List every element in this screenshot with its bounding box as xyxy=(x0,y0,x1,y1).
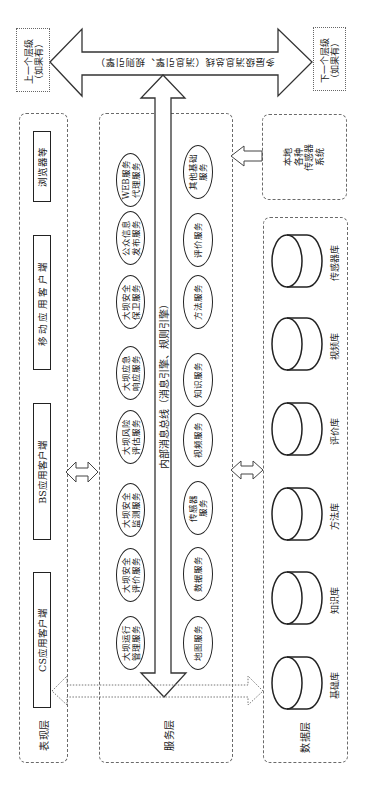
service-sensor: 传感器服务 xyxy=(183,481,213,535)
service-data: 数据服务 xyxy=(183,547,213,601)
service-dam-operation-management: 大坝运行管理服务 xyxy=(116,616,145,670)
service-data-double-arrow xyxy=(231,461,263,479)
service-web-proxy: WEB服务代理服务 xyxy=(116,153,145,207)
service-evaluation: 评价服务 xyxy=(183,213,213,267)
service-knowledge: 知识服务 xyxy=(183,353,213,407)
service-public-info-publishing: 公众信息发布服务 xyxy=(116,211,145,265)
database-cylinder-icon xyxy=(271,570,325,626)
sensor-to-service-arrow xyxy=(231,146,262,166)
architecture-diagram: 上一个层级 （如果有） 下一个层级 （如果有） 多层级消息总线（消息引擎、规则引… xyxy=(0,0,369,789)
upper-level-box: 上一个层级 （如果有） xyxy=(16,28,50,92)
service-layer-label: 服务层 xyxy=(161,719,176,751)
internal-bus-label: 内部消息总线（消息引擎、规则引擎） xyxy=(156,299,171,469)
database-cylinder-icon xyxy=(271,486,325,542)
service-dam-risk-assessment: 大坝风险评估服务 xyxy=(116,410,145,464)
service-dam-emergency-response: 大坝应急响应服务 xyxy=(116,346,145,400)
service-dam-security: 大坝安全保卫服务 xyxy=(116,275,145,329)
database-knowledge: 知识库 xyxy=(271,570,341,626)
lower-level-box: 下一个层级 （如果有） xyxy=(313,27,346,91)
service-method: 方法服务 xyxy=(183,275,213,329)
service-video: 视频服务 xyxy=(183,413,213,467)
service-map: 地图服务 xyxy=(183,616,213,670)
local-sensor-system-label: 本地 各种 传感器 系统 xyxy=(283,144,325,171)
client-mobile: 移动应用客户端 xyxy=(33,235,51,370)
client-cs: CS应用客户端 xyxy=(33,572,51,708)
database-sensor: 传感器库 xyxy=(271,233,341,289)
lower-level-label: 下一个层级 （如果有） xyxy=(320,38,340,83)
service-dam-safety-monitoring: 大坝安全监测服务 xyxy=(116,483,145,537)
client-browser: 浏览器等 xyxy=(33,131,51,202)
database-cylinder-icon xyxy=(271,401,325,457)
database-evaluation: 评价库 xyxy=(271,401,341,457)
database-cylinder-icon xyxy=(271,316,325,372)
service-other-base: 其他基础服务 xyxy=(183,145,213,199)
multilevel-bus-label: 多层级消息总线（消息引擎、规则引擎） xyxy=(95,56,275,70)
service-dam-safety-evaluation: 大坝安全评价服务 xyxy=(116,548,145,602)
upper-level-label: 上一个层级 （如果有） xyxy=(24,39,44,84)
client-bs: BS应用客户端 xyxy=(33,403,51,540)
presentation-service-double-arrow xyxy=(66,462,98,482)
database-basic: 基础库 xyxy=(271,655,341,711)
database-video: 视频库 xyxy=(271,316,341,372)
database-cylinder-icon xyxy=(271,233,325,289)
database-cylinder-icon xyxy=(271,655,325,711)
presentation-layer-label: 表现层 xyxy=(36,719,51,751)
database-method: 方法库 xyxy=(271,486,341,542)
data-layer-label: 数据层 xyxy=(297,721,312,753)
